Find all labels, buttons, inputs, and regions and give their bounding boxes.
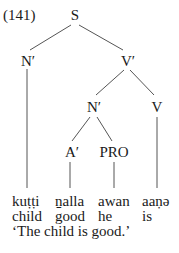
word-form-4: aaṇə: [142, 194, 169, 209]
word-gloss-3: he: [98, 209, 112, 224]
word-gloss-2: good: [55, 209, 85, 224]
word-form-1: kuṭṭi: [12, 194, 40, 209]
node-predicate-nbar: N′: [87, 100, 101, 115]
word-form-2: ṉalla: [55, 194, 84, 209]
node-s: S: [71, 8, 79, 23]
word-form-3: awan: [98, 194, 130, 209]
word-gloss-4: is: [142, 209, 152, 224]
node-abar: A′: [65, 145, 79, 160]
node-pro: PRO: [99, 145, 128, 160]
node-v: V: [152, 100, 163, 115]
word-gloss-1: child: [12, 209, 42, 224]
free-translation: ‘The child is good.’: [12, 224, 130, 239]
node-subject-nbar: N′: [21, 54, 35, 69]
node-vbar: V′: [121, 54, 135, 69]
